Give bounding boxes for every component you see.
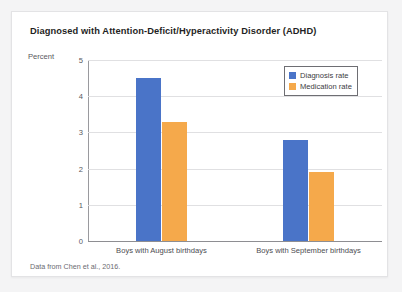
chart-legend: Diagnosis rateMedication rate: [284, 66, 358, 96]
bar-diagnosis-1: [283, 140, 308, 241]
gridline: [88, 60, 382, 61]
bar-medication-0: [162, 122, 187, 241]
x-axis-tick-label-1: Boys with September birthdays: [256, 246, 361, 255]
chart-title: Diagnosed with Attention-Deficit/Hyperac…: [30, 25, 376, 37]
gridline: [88, 132, 382, 133]
legend-item-1[interactable]: Medication rate: [289, 81, 352, 92]
legend-label: Medication rate: [300, 81, 352, 92]
y-axis-tick-label: 0: [79, 237, 83, 246]
legend-item-0[interactable]: Diagnosis rate: [289, 70, 352, 81]
legend-label: Diagnosis rate: [300, 70, 349, 81]
y-axis-tick-label: 5: [79, 56, 83, 65]
legend-swatch-icon: [289, 72, 296, 79]
gridline: [88, 205, 382, 206]
y-axis-tick-label: 4: [79, 92, 83, 101]
bar-medication-1: [309, 172, 334, 241]
gridline: [88, 169, 382, 170]
legend-swatch-icon: [289, 83, 296, 90]
bar-diagnosis-0: [136, 78, 161, 241]
y-axis-tick-label: 2: [79, 164, 83, 173]
chart-card: Diagnosed with Attention-Deficit/Hyperac…: [11, 11, 388, 277]
y-axis-tick-label: 1: [79, 200, 83, 209]
page-background: Diagnosed with Attention-Deficit/Hyperac…: [0, 0, 402, 292]
source-note: Data from Chen et al., 2016.: [30, 262, 120, 271]
gridline: [88, 96, 382, 97]
y-axis-unit-label: Percent: [28, 52, 54, 61]
x-axis-line: [88, 241, 382, 242]
x-axis-tick-label-0: Boys with August birthdays: [116, 246, 207, 255]
y-axis-tick-label: 3: [79, 128, 83, 137]
